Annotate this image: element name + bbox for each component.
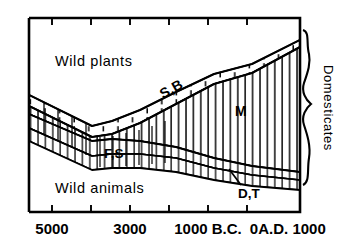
label-wild-plants: Wild plants (55, 53, 133, 69)
label-maize: M (235, 103, 247, 119)
label-wild-animals: Wild animals (55, 180, 144, 196)
x-tick-label-2: 1000 B.C. (174, 220, 242, 237)
label-deer-turkey: D,T (238, 186, 261, 201)
label-domesticates: Domesticates (321, 65, 336, 151)
diagram-canvas: Wild plants Wild animals S,B M F,S D,T D… (0, 0, 343, 251)
x-tick-label-4: A.D. 1000 (258, 220, 326, 237)
x-tick-label-1: 3000 (113, 220, 146, 237)
x-tick-label-0: 5000 (35, 220, 68, 237)
x-tick-label-3: 0 (250, 220, 258, 237)
figure-subsistence-diagram: Wild plants Wild animals S,B M F,S D,T D… (0, 0, 343, 251)
label-fish-shellfish: F,S (104, 146, 124, 161)
